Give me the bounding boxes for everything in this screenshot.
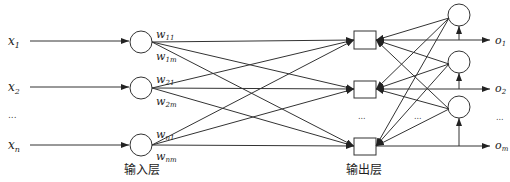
weight-label-w1m: w1m (156, 50, 177, 64)
feedback-connections (376, 18, 449, 146)
output-label-2: o2 (495, 82, 507, 96)
neural-network-diagram: x1 x2 ... xn w11 w1m w21 w2m wn1 wnm ...… (0, 0, 510, 182)
output-unit-1 (354, 31, 376, 49)
output-layer-label: 输出层 (346, 162, 382, 177)
weight-label-wn1: wn1 (156, 128, 174, 142)
input-label-n: xn (8, 138, 20, 154)
weight-connections (152, 40, 354, 146)
feedback-neuron-2 (448, 51, 470, 73)
output-unit-2 (354, 81, 376, 98)
diagram-svg: x1 x2 ... xn w11 w1m w21 w2m wn1 wnm ...… (0, 0, 510, 182)
input-neuron-2 (130, 77, 152, 99)
weight-label-w21: w21 (156, 73, 174, 87)
output-unit-ellipsis: ... (358, 112, 366, 121)
input-label-1: x1 (8, 34, 20, 50)
output-ellipsis: ... (496, 113, 504, 122)
weight-label-wnm: wnm (156, 150, 177, 164)
weight-label-w11: w11 (156, 28, 174, 42)
input-layer-label: 输入层 (124, 162, 160, 177)
feedback-neuron-m (448, 96, 470, 118)
weight-label-w2m: w2m (156, 95, 177, 109)
input-neuron-n (130, 134, 152, 156)
feedback-neuron-1 (448, 4, 470, 26)
output-label-1: o1 (495, 34, 506, 48)
input-neuron-1 (130, 31, 152, 53)
output-label-m: om (495, 139, 509, 153)
input-ellipsis: ... (8, 110, 17, 120)
input-label-2: x2 (8, 80, 20, 96)
output-unit-m (354, 138, 376, 155)
feedback-ellipsis: ... (414, 112, 422, 121)
